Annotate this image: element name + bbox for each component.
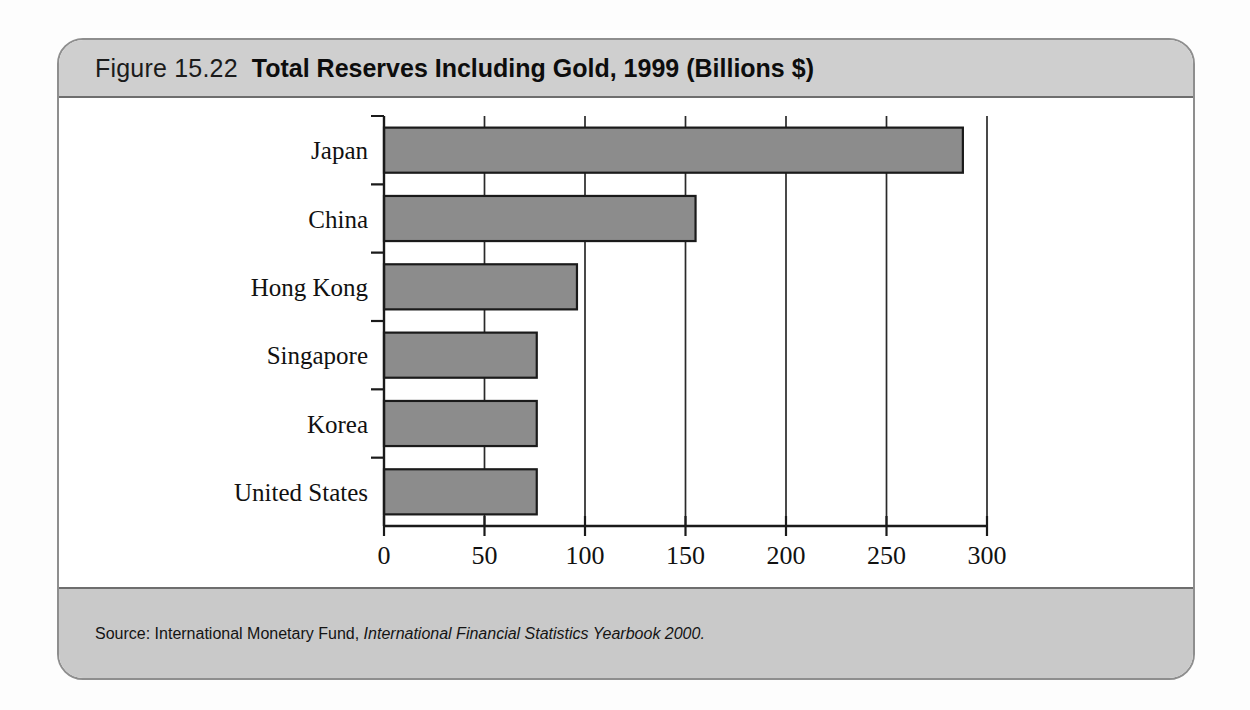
chart-plot-area: JapanChinaHong KongSingaporeKoreaUnited … <box>59 98 1193 587</box>
figure-screenshot: Figure 15.22 Total Reserves Including Go… <box>0 0 1250 710</box>
x-tick-label-300: 300 <box>968 541 1007 570</box>
x-tick-label-150: 150 <box>666 541 705 570</box>
figure-card: Figure 15.22 Total Reserves Including Go… <box>57 38 1195 680</box>
figure-number: Figure 15.22 <box>95 54 238 83</box>
bar-japan[interactable] <box>384 128 963 173</box>
x-tick-label-200: 200 <box>767 541 806 570</box>
source-prefix: Source: International Monetary Fund, <box>95 625 359 642</box>
bar-chart-svg: JapanChinaHong KongSingaporeKoreaUnited … <box>59 98 1193 587</box>
figure-source-band: Source: International Monetary Fund, Int… <box>59 587 1193 678</box>
bar-korea[interactable] <box>384 401 537 446</box>
source-publication: International Financial Statistics Yearb… <box>364 625 705 642</box>
category-label-japan: Japan <box>311 137 368 164</box>
bar-united-states[interactable] <box>384 469 537 514</box>
category-label-korea: Korea <box>307 411 368 438</box>
category-label-hong-kong: Hong Kong <box>251 274 369 301</box>
figure-title: Total Reserves Including Gold, 1999 (Bil… <box>252 54 814 83</box>
bar-hong-kong[interactable] <box>384 264 577 309</box>
bar-singapore[interactable] <box>384 333 537 378</box>
bar-china[interactable] <box>384 196 696 241</box>
source-line: Source: International Monetary Fund, Int… <box>95 625 705 643</box>
x-tick-label-0: 0 <box>378 541 391 570</box>
x-tick-label-250: 250 <box>867 541 906 570</box>
category-label-singapore: Singapore <box>267 342 368 369</box>
category-label-china: China <box>308 206 368 233</box>
x-tick-label-100: 100 <box>566 541 605 570</box>
category-label-united-states: United States <box>234 479 368 506</box>
figure-header-band: Figure 15.22 Total Reserves Including Go… <box>59 40 1193 98</box>
x-tick-label-50: 50 <box>472 541 498 570</box>
